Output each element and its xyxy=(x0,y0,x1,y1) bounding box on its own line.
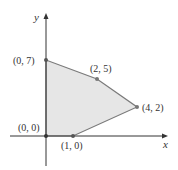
vertex-label-4-2: (4, 2) xyxy=(142,102,164,114)
vertex-label-0-7: (0, 7) xyxy=(13,55,35,67)
vertex-dot-0-0 xyxy=(44,134,48,138)
vertex-dot-0-7 xyxy=(44,58,48,62)
vertex-label-1-0: (1, 0) xyxy=(61,140,83,152)
x-axis-label: x xyxy=(162,138,168,150)
y-axis-label: y xyxy=(33,11,39,23)
vertex-dot-2-5 xyxy=(95,77,99,81)
y-axis-arrow-icon xyxy=(44,13,49,19)
vertex-label-0-0: (0, 0) xyxy=(18,122,40,134)
feasible-region-diagram: x y (0, 0) (1, 0) (4, 2) (2, 5) (0, 7) xyxy=(0,0,178,170)
vertex-label-2-5: (2, 5) xyxy=(90,63,112,75)
vertex-dot-4-2 xyxy=(135,105,139,109)
vertex-dot-1-0 xyxy=(71,134,75,138)
